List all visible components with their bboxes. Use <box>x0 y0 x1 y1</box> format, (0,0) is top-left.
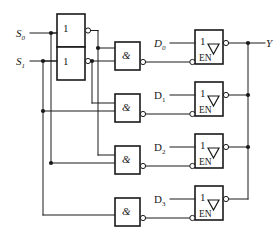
inverter-s0: 1 <box>57 14 91 47</box>
data-input-labels: D0 D1 D2 D3 <box>153 37 166 208</box>
junction-dot <box>49 161 53 165</box>
junction-dot <box>96 46 100 50</box>
tri-state-buffer-0-top-label: 1 <box>200 35 206 47</box>
tri-state-buffer-2-top-label: 1 <box>200 139 206 151</box>
select-input-labels: S0 S1 <box>16 27 26 70</box>
label-d2: D2 <box>154 141 166 156</box>
label-d0: D0 <box>153 37 166 52</box>
tri-state-buffer-0: 1 EN <box>170 30 248 65</box>
tri-state-buffer-2: 1 EN <box>170 134 248 169</box>
and-gate-1-label: & <box>122 101 131 113</box>
inverter-s1-label: 1 <box>63 55 69 67</box>
tri-state-buffer-3: 1 EN <box>170 186 248 221</box>
tri-state-buffer-2-en-label: EN <box>199 157 212 167</box>
junction-dot <box>41 109 45 113</box>
label-y: Y <box>266 37 274 49</box>
circuit-diagram-canvas: 1 1 <box>0 0 277 241</box>
junction-dot <box>90 59 94 63</box>
label-d1: D1 <box>154 89 166 104</box>
inverter-s0-label: 1 <box>63 22 69 34</box>
s1-bar-wire <box>91 61 115 103</box>
circuit-svg: 1 1 <box>0 0 277 241</box>
inverter-s1: 1 <box>57 47 91 80</box>
tri-state-buffer-0-en-label: EN <box>199 53 212 63</box>
tri-state-buffer-3-en-label: EN <box>199 209 212 219</box>
s0-bar-wire <box>91 31 115 156</box>
tri-state-buffer-1-top-label: 1 <box>200 87 206 99</box>
and-gate-0-label: & <box>122 49 131 61</box>
tri-state-buffer-1: 1 EN <box>170 82 248 117</box>
and-gate-3-label: & <box>122 205 131 217</box>
junction-dot <box>246 145 250 149</box>
output-bus <box>246 41 265 199</box>
tri-state-buffer-1-en-label: EN <box>199 105 212 115</box>
junction-dot <box>246 41 250 45</box>
label-s0: S0 <box>16 27 26 42</box>
label-d3: D3 <box>154 193 166 208</box>
label-s1: S1 <box>16 55 25 70</box>
s1-bus <box>43 61 115 215</box>
and-gate-2-label: & <box>122 153 131 165</box>
select-input-wires <box>30 33 57 61</box>
tri-state-buffer-3-top-label: 1 <box>200 191 206 203</box>
junction-dot <box>246 93 250 97</box>
